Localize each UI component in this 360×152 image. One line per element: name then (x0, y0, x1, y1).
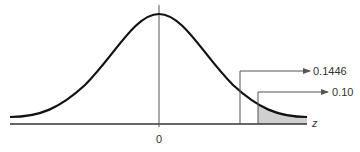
normal-curve-diagram (0, 0, 360, 152)
axis-label-z: z (312, 118, 318, 129)
center-label: 0 (156, 134, 162, 145)
annotation-label-2: 0.10 (332, 87, 353, 98)
annotation-label-1: 0.1446 (313, 66, 347, 77)
